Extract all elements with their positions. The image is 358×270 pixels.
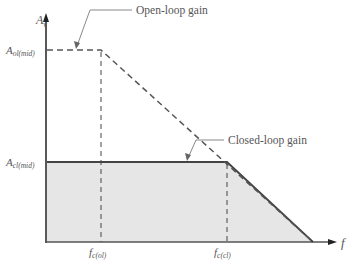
open-loop-callout: Open-loop gain — [136, 4, 208, 17]
open-loop-callout-leader — [77, 10, 132, 46]
x-axis-arrow-icon — [328, 239, 337, 245]
x-axis-label: f — [341, 235, 347, 250]
closed-loop-level-label: Acl(mid) — [5, 156, 35, 170]
open-loop-cutoff-label: fc(ol) — [89, 246, 107, 260]
closed-loop-callout-leader — [188, 140, 224, 158]
open-loop-level-label: Aol(mid) — [5, 44, 35, 58]
closed-loop-area — [47, 162, 313, 242]
open-loop-callout-arrow-icon — [74, 41, 80, 49]
closed-loop-cutoff-label: fc(cl) — [214, 246, 231, 260]
gain-frequency-diagram: Av f Aol(mid) Acl(mid) fc(ol) fc(cl) Ope… — [0, 0, 358, 270]
closed-loop-callout: Closed-loop gain — [228, 134, 307, 147]
